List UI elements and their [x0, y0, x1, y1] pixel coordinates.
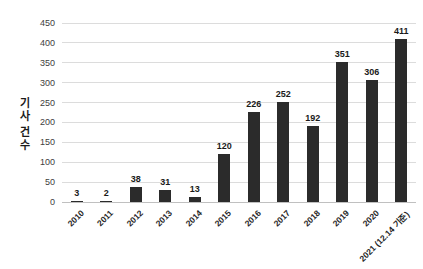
y-tick-label-150: 150 [25, 137, 55, 147]
bar-value-label: 192 [298, 113, 328, 123]
y-tick-label-50: 50 [25, 177, 55, 187]
y-tick-label-250: 250 [25, 98, 55, 108]
bar-slot: 226 [239, 23, 269, 202]
bar [277, 102, 289, 202]
y-tick-label-0: 0 [25, 197, 55, 207]
y-tick-label-350: 350 [25, 58, 55, 68]
x-tick-label: 2016 [242, 208, 262, 228]
y-tick-label-200: 200 [25, 117, 55, 127]
bar-slot: 3 [62, 23, 92, 202]
bar-slot: 38 [121, 23, 151, 202]
bar [130, 187, 142, 202]
x-tick-label: 2015 [213, 208, 233, 228]
y-tick-label-100: 100 [25, 157, 55, 167]
bar-value-label: 13 [180, 184, 210, 194]
x-tick-label: 2012 [124, 208, 144, 228]
plot-area: 0501001502002503003504004503201022011382… [62, 23, 416, 202]
bar-chart-figure: 기사건수 05010015020025030035040045032010220… [0, 0, 423, 269]
bar [100, 201, 112, 202]
bar [189, 197, 201, 202]
bar-slot: 120 [210, 23, 240, 202]
bar-slot: 31 [151, 23, 181, 202]
x-tick-label: 2020 [360, 208, 380, 228]
bar [218, 154, 230, 202]
bar-value-label: 3 [62, 188, 92, 198]
bar-slot: 306 [357, 23, 387, 202]
bar [159, 190, 171, 202]
y-tick-label-300: 300 [25, 78, 55, 88]
x-tick-label: 2019 [331, 208, 351, 228]
bar-value-label: 411 [387, 26, 417, 36]
bar [71, 201, 83, 202]
x-tick-label: 2017 [272, 208, 292, 228]
bar [366, 80, 378, 202]
bar-value-label: 31 [151, 177, 181, 187]
bar-value-label: 120 [210, 141, 240, 151]
x-tick-label: 2011 [95, 208, 115, 228]
bar-slot: 192 [298, 23, 328, 202]
x-tick-label: 2018 [301, 208, 321, 228]
bar-value-label: 38 [121, 174, 151, 184]
bar [395, 39, 407, 202]
bar-slot: 351 [328, 23, 358, 202]
x-tick-label: 2014 [183, 208, 203, 228]
bar-value-label: 2 [92, 188, 122, 198]
bar-value-label: 351 [328, 49, 358, 59]
x-tick-label: 2010 [65, 208, 85, 228]
y-tick-label-450: 450 [25, 18, 55, 28]
bar-slot: 252 [269, 23, 299, 202]
y-tick-label-400: 400 [25, 38, 55, 48]
bar [307, 126, 319, 202]
x-tick-label: 2013 [154, 208, 174, 228]
bar-value-label: 252 [269, 89, 299, 99]
bar [336, 62, 348, 202]
bar [248, 112, 260, 202]
bar-value-label: 306 [357, 67, 387, 77]
bar-slot: 13 [180, 23, 210, 202]
bar-slot: 2 [92, 23, 122, 202]
bar-slot: 411 [387, 23, 417, 202]
bar-value-label: 226 [239, 99, 269, 109]
